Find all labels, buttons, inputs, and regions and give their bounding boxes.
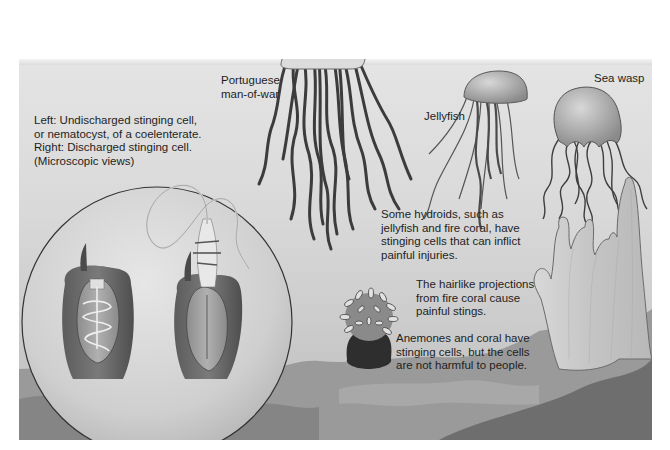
sea-anemone-illustration — [340, 288, 398, 369]
hydroids-caption: Some hydroids, such as jellyfish and fir… — [381, 208, 520, 262]
anemones-caption: Anemones and coral have stinging cells, … — [396, 332, 530, 373]
jellyfish-illustration — [424, 71, 527, 229]
nematocyst-caption: Left: Undischarged stinging cell, or nem… — [34, 114, 201, 168]
jellyfish-label: Jellyfish — [424, 110, 465, 124]
man-of-war-label: Portuguese man-of-war — [221, 74, 280, 101]
microscopic-inset-circle — [22, 185, 292, 440]
sea-wasp-label: Sea wasp — [594, 72, 645, 86]
fire-coral-caption: The hairlike projections from fire coral… — [416, 278, 534, 319]
illustration-panel: Left: Undischarged stinging cell, or nem… — [19, 59, 652, 440]
fire-coral-illustration — [534, 177, 652, 370]
